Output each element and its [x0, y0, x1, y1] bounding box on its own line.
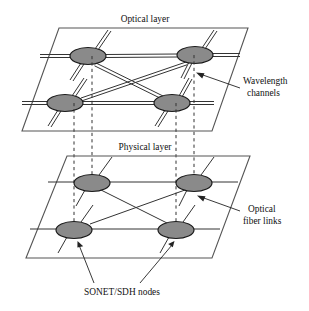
wavelength-channels-leader-line [200, 74, 240, 88]
sonet-sdh-nodes-label: SONET/SDH nodes [84, 287, 160, 297]
optical-fiber-links-annotation: Optical fiber links [197, 196, 282, 227]
wavelength-link-diag-a [96, 63, 163, 96]
sonet-sdh-arrowhead-left [77, 241, 83, 247]
fiber-link-diag-b [90, 190, 185, 224]
optical-layer-title: Optical layer [121, 14, 171, 24]
wavelength-channels-label-line2: channels [247, 88, 280, 98]
physical-node-bottom-left [56, 222, 92, 239]
sonet-sdh-nodes-annotation: SONET/SDH nodes [77, 241, 174, 297]
figure-root: Optical layer [0, 0, 309, 311]
physical-layer-title: Physical layer [119, 142, 173, 152]
physical-node-top-right [176, 175, 212, 192]
optical-node-bottom-left [47, 95, 83, 112]
wavelength-channels-arrowhead [196, 73, 205, 79]
optical-node-bottom-right [154, 95, 190, 112]
sonet-sdh-leader-line-right [140, 245, 172, 283]
network-layer-diagram: Optical layer [0, 0, 309, 311]
optical-external-stubs [22, 30, 240, 127]
physical-node-top-left [74, 175, 110, 192]
sonet-sdh-leader-line-left [79, 245, 94, 283]
optical-fiber-links-label-line2: fiber links [243, 216, 282, 226]
wavelength-link-top [106, 54, 177, 55]
wavelength-channels-annotation: Wavelength channels [196, 73, 288, 99]
fiber-link-diag-a [101, 190, 167, 223]
wavelength-channels-label-line1: Wavelength [243, 76, 288, 86]
optical-fiber-links-label-line1: Optical [248, 204, 276, 214]
optical-node-top-left [70, 48, 106, 65]
physical-node-bottom-right [158, 222, 194, 239]
optical-fiber-links-arrowhead [197, 196, 206, 202]
optical-node-top-right [177, 47, 213, 64]
